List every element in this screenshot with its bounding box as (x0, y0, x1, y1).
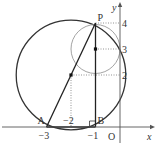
x-tick-label: −2 (63, 115, 74, 126)
x-tick-label: −3 (39, 130, 50, 141)
small-circle-center (94, 47, 97, 50)
y-tick-label: 3 (122, 44, 127, 55)
y-tick-label: 4 (122, 18, 127, 29)
y-axis-arrow-icon (118, 2, 122, 7)
big-circle-center (69, 73, 72, 76)
y-axis-label: y (111, 2, 117, 13)
point-B-label: B (98, 115, 105, 126)
point-A-label: A (38, 115, 46, 126)
origin-label: O (108, 131, 115, 142)
x-axis-arrow-icon (150, 125, 155, 129)
x-tick-label: −1 (88, 130, 99, 141)
y-tick-label: 2 (122, 70, 127, 81)
x-axis-label: x (146, 131, 152, 142)
geometry-figure: xyO−3−2−1432PAB (0, 0, 161, 148)
point-P-label: P (98, 12, 104, 23)
